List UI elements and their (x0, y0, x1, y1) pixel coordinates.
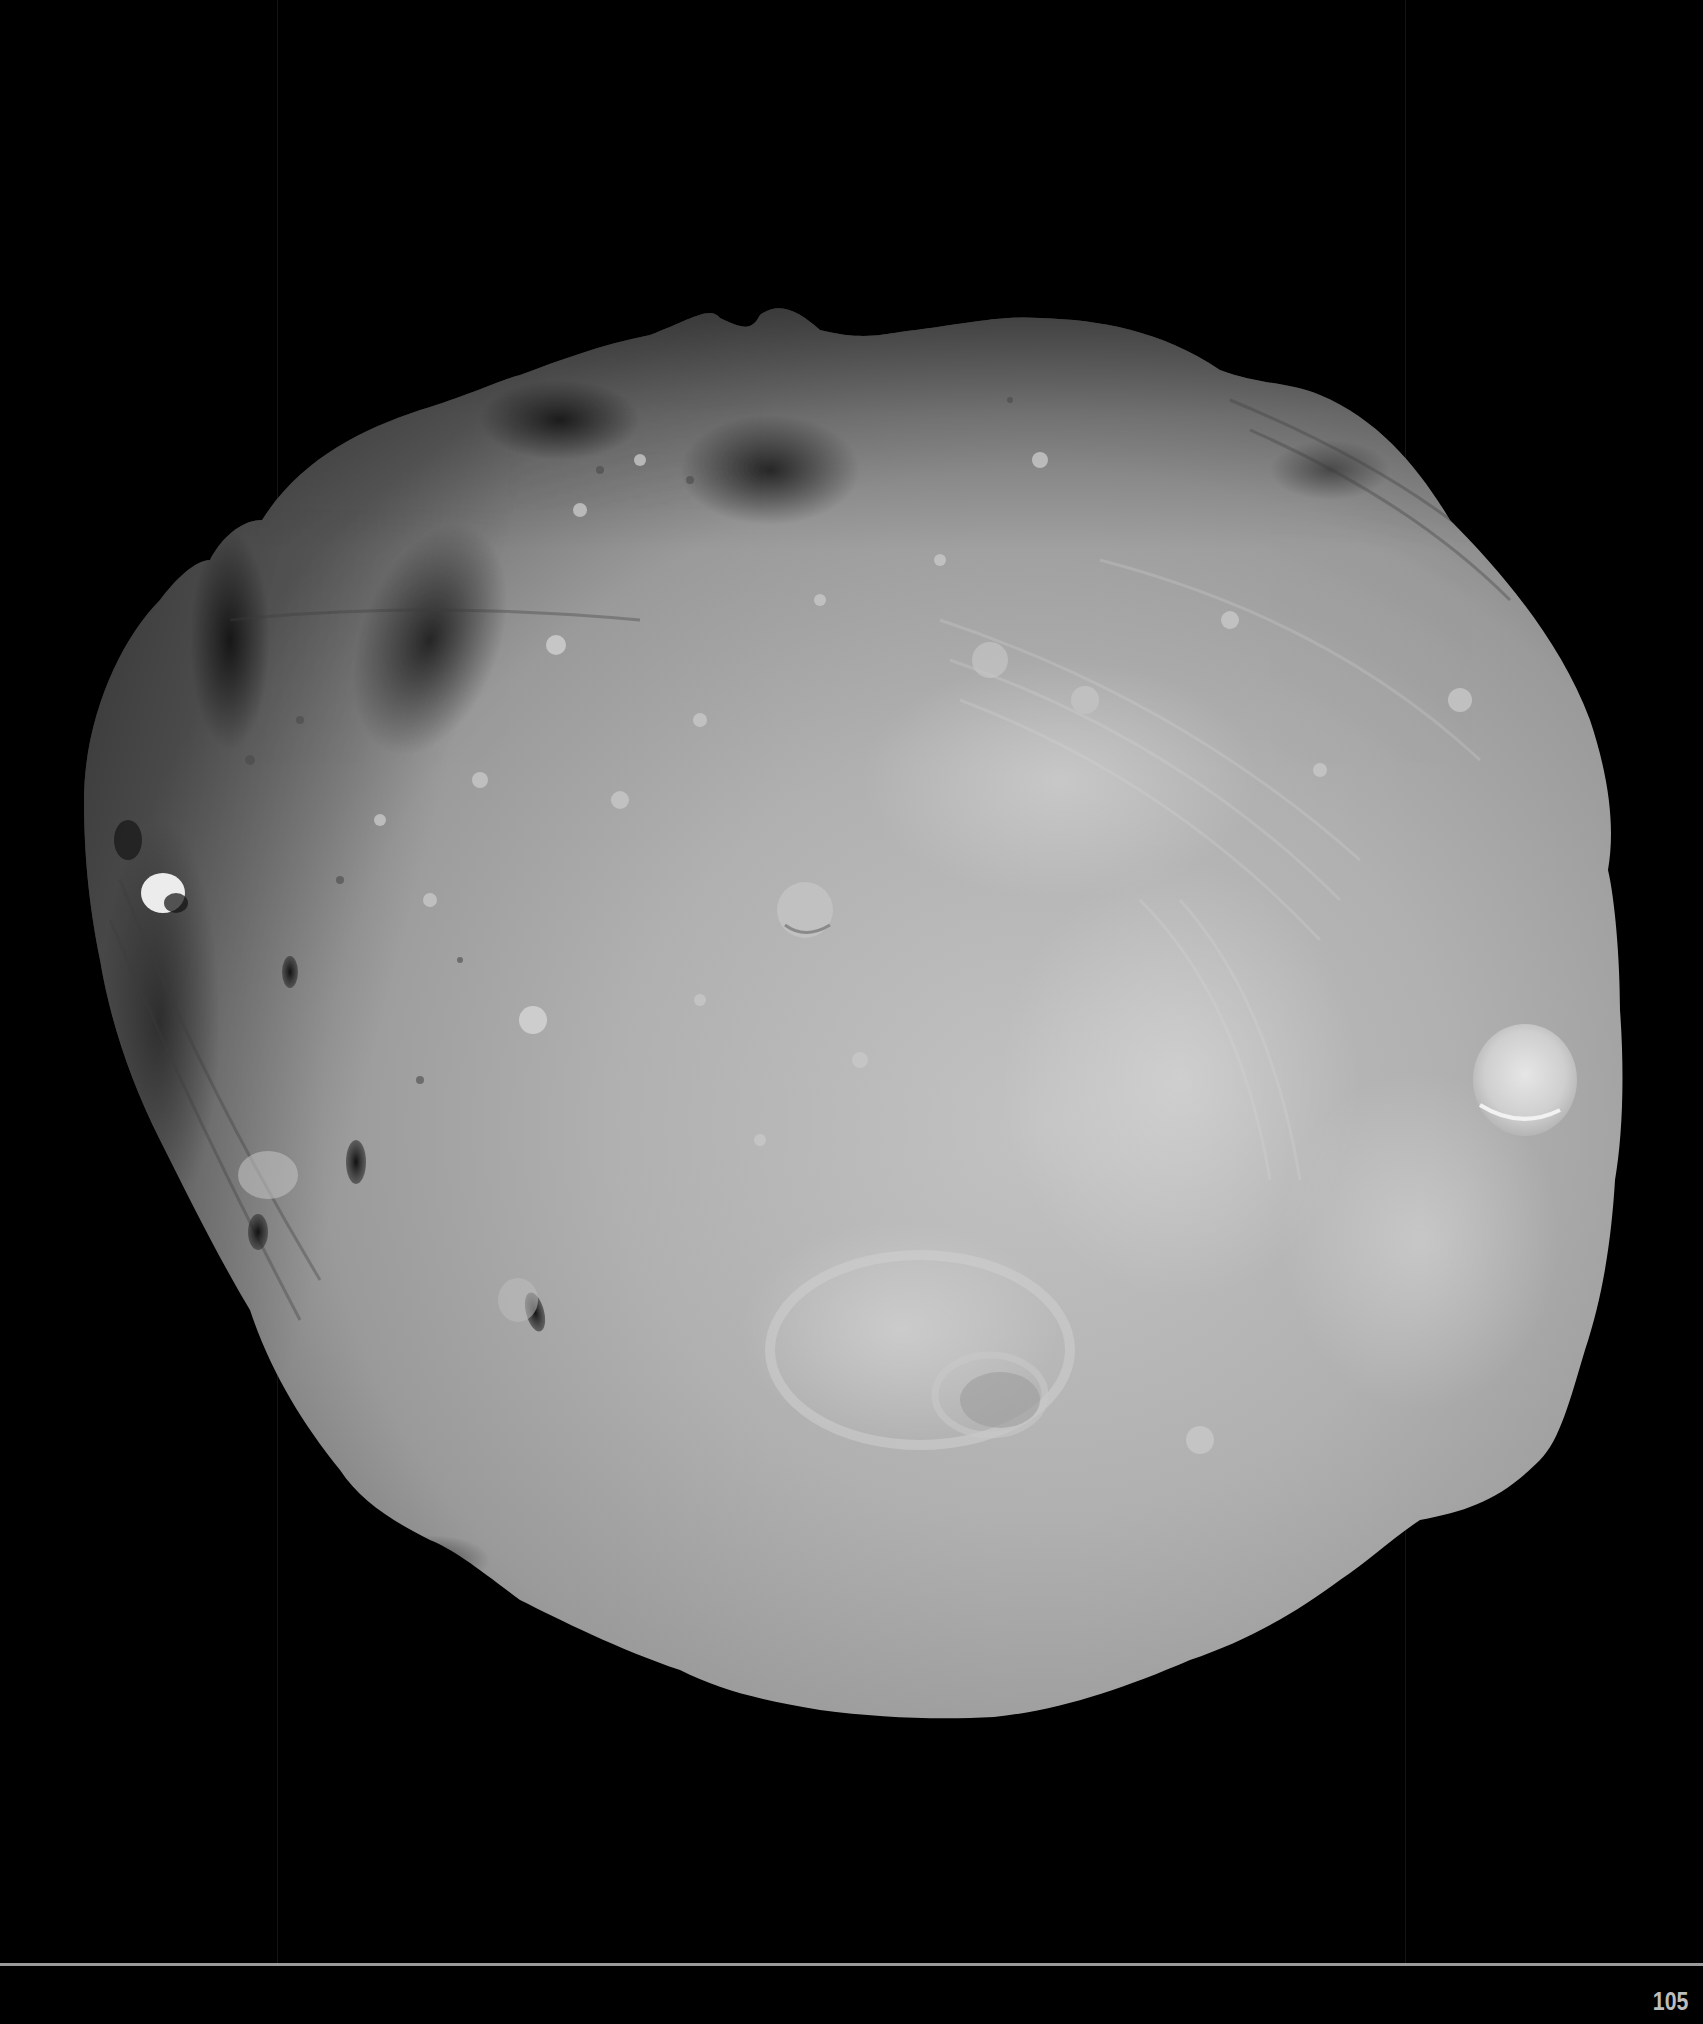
page-rule (0, 1963, 1703, 1966)
page: 105 (0, 0, 1703, 2024)
moon-photo (0, 0, 1703, 1960)
page-number: 105 (1652, 1986, 1688, 2017)
